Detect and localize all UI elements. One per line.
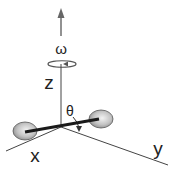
z-axis-label: z [44, 72, 54, 93]
theta-label: θ [66, 103, 74, 119]
rotation-circle-icon [48, 61, 76, 67]
bond-rod [25, 119, 99, 132]
angular-velocity-arrow-icon [58, 8, 65, 36]
y-axis-label: y [153, 138, 163, 159]
x-axis-label: x [30, 145, 40, 166]
omega-label: ω [55, 40, 67, 57]
diagram-canvas: ω z x y θ [0, 0, 175, 173]
y-axis [61, 127, 168, 165]
diatomic-molecule [13, 110, 113, 140]
